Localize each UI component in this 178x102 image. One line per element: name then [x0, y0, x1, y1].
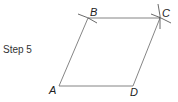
side-DC: [133, 18, 160, 86]
parallelogram-diagram: A B C D: [0, 0, 178, 102]
vertex-label-D: D: [130, 86, 138, 98]
vertex-label-C: C: [162, 7, 170, 19]
vertex-label-B: B: [90, 6, 97, 18]
parallelogram-sides: [59, 18, 160, 86]
side-AB: [59, 18, 88, 86]
vertex-label-A: A: [48, 84, 56, 96]
